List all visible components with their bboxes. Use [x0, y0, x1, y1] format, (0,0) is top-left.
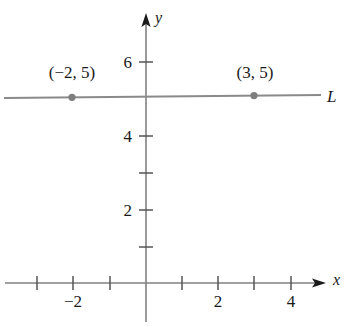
- point-label-right: (3, 5): [237, 64, 274, 81]
- y-tick-label-6: 6: [124, 54, 133, 71]
- x-tick-label-neg2: −2: [64, 293, 82, 310]
- x-tick-label-2: 2: [214, 293, 223, 310]
- line-label-L: L: [327, 88, 336, 105]
- line-L: [4, 95, 321, 98]
- x-axis-label: x: [333, 272, 340, 288]
- y-tick-label-2: 2: [124, 202, 133, 219]
- x-tick-label-4: 4: [287, 293, 296, 310]
- y-tick-label-4: 4: [124, 128, 133, 145]
- y-axis-label: y: [155, 10, 162, 26]
- point-marker: [250, 92, 257, 99]
- point-marker: [68, 94, 75, 101]
- coordinate-plane-svg: [0, 0, 349, 326]
- point-label-left: (−2, 5): [49, 64, 95, 81]
- graph-figure: (−2, 5) (3, 5) L x y −2 2 4 2 4 6: [0, 0, 349, 326]
